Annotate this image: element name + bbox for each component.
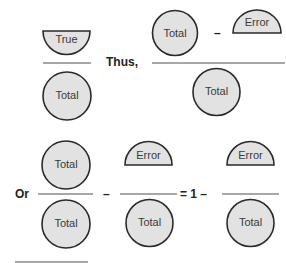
or-text: Or xyxy=(15,187,29,201)
equals-one-minus-operator: = 1 – xyxy=(180,187,207,201)
error-label: Error xyxy=(245,16,270,28)
total-label: Total xyxy=(54,217,77,229)
total-label: Total xyxy=(55,89,78,101)
fraction-error-over-total-right: Error Total xyxy=(222,142,279,247)
accuracy-formula-diagram: True Total Thus, Total – Error Total Or … xyxy=(0,0,286,263)
thus-text: Thus, xyxy=(106,55,138,69)
fraction-total-minus-error-over-total: Total – Error Total xyxy=(152,10,285,116)
total-label: Total xyxy=(138,216,161,228)
total-label: Total xyxy=(54,158,77,170)
total-label: Total xyxy=(163,27,186,39)
total-label: Total xyxy=(239,216,262,228)
true-label: True xyxy=(55,33,77,45)
error-label: Error xyxy=(136,149,161,161)
minus-operator: – xyxy=(103,187,110,201)
fraction-true-over-total: True Total xyxy=(43,31,91,120)
minus-operator: – xyxy=(214,26,221,40)
total-label: Total xyxy=(205,85,228,97)
fraction-error-over-total-left: Error Total xyxy=(120,142,177,247)
fraction-total-over-total: Total Total xyxy=(38,141,93,248)
error-label: Error xyxy=(238,149,263,161)
